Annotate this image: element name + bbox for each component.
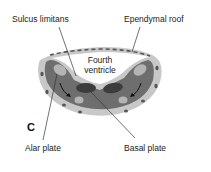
label-fourth-ventricle: Fourth ventricle bbox=[80, 56, 120, 76]
basal-nucleus-left bbox=[76, 83, 96, 93]
label-alar-plate: Alar plate bbox=[25, 144, 61, 153]
leader-ependymal-roof bbox=[132, 27, 140, 52]
label-ependymal-roof: Ependymal roof bbox=[124, 15, 184, 24]
label-sulcus-limitans: Sulcus limitans bbox=[12, 15, 69, 24]
small-nucleus-right bbox=[119, 97, 128, 104]
label-basal-plate: Basal plate bbox=[124, 144, 166, 153]
label-fourth-ventricle-line2: ventricle bbox=[80, 66, 120, 76]
small-nucleus-left bbox=[75, 97, 84, 104]
panel-letter: C bbox=[27, 122, 35, 133]
